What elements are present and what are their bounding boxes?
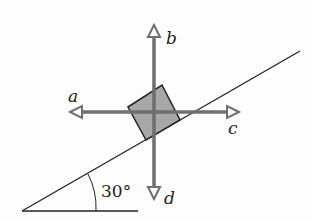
incline-diagram: a b c d 30° [0, 0, 313, 221]
label-b: b [166, 28, 177, 48]
angle-label: 30° [101, 181, 131, 201]
label-a: a [68, 86, 78, 106]
arrowhead-b-icon [148, 25, 160, 37]
arrowhead-d-icon [148, 187, 160, 199]
label-c: c [228, 118, 238, 138]
arrowhead-a-icon [70, 106, 82, 118]
diagram-canvas: a b c d 30° [0, 0, 313, 221]
arrowhead-c-icon [227, 106, 239, 118]
label-d: d [164, 188, 175, 208]
angle-arc [88, 174, 96, 211]
